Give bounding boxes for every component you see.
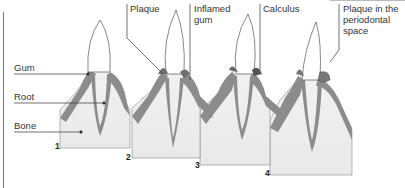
label-inflamed-gum-line1: Inflamed xyxy=(194,4,230,14)
label-plaque-space-line2: periodontal xyxy=(343,15,390,25)
stage-number-2: 2 xyxy=(126,152,131,162)
label-plaque-space-line3: space xyxy=(343,26,368,36)
label-plaque: Plaque xyxy=(130,4,160,14)
label-bone: Bone xyxy=(14,121,36,131)
label-calculus: Calculus xyxy=(263,4,299,14)
stage-1-block xyxy=(60,20,130,148)
stage-number-3: 3 xyxy=(195,160,200,170)
stage-4-block xyxy=(270,22,352,175)
stage-number-4: 4 xyxy=(265,168,270,178)
label-inflamed-gum-line2: gum xyxy=(194,15,212,25)
label-plaque-space-line1: Plaque in the xyxy=(343,4,398,14)
label-gum: Gum xyxy=(14,63,35,73)
stage-number-1: 1 xyxy=(55,141,60,151)
stage-3-block xyxy=(200,14,282,165)
label-root: Root xyxy=(14,92,34,102)
